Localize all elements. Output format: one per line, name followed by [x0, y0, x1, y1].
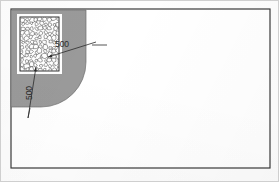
- dimension-vertical-500-label: 500: [24, 86, 34, 100]
- drawing-canvas: 500500: [0, 0, 279, 182]
- technical-drawing: 500500: [0, 0, 279, 182]
- stone-shape: [39, 64, 42, 67]
- stone-shape: [48, 64, 51, 67]
- stone-shape: [30, 27, 33, 31]
- stone-shape: [35, 59, 38, 62]
- stone-shape: [35, 33, 38, 36]
- stone-shape: [44, 49, 48, 52]
- stone-shape: [49, 40, 52, 43]
- stone-shape: [34, 17, 38, 22]
- stone-shape: [29, 61, 34, 66]
- dimension-horizontal-500-label: 500: [55, 39, 69, 49]
- stone-shape: [25, 54, 28, 57]
